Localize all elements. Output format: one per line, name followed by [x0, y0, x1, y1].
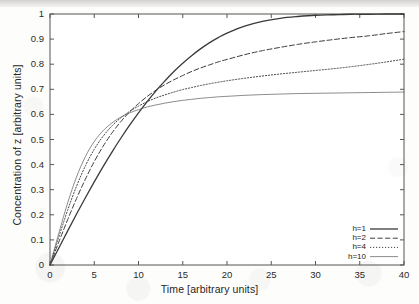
legend-label-h10: h=10 — [332, 252, 366, 261]
y-tick-label: 0.2 — [18, 209, 44, 220]
y-tick-label: 0.1 — [18, 234, 44, 245]
x-tick-label: 25 — [256, 269, 286, 280]
y-tick-label: 0.6 — [18, 108, 44, 119]
x-tick-label: 5 — [79, 269, 109, 280]
y-tick-label: 1 — [18, 8, 44, 19]
y-tick-label: 0.8 — [18, 58, 44, 69]
legend-label-h4: h=4 — [332, 242, 366, 251]
x-tick-label: 20 — [212, 269, 242, 280]
y-tick-label: 0.9 — [18, 33, 44, 44]
y-tick-label: 0.5 — [18, 134, 44, 145]
chart-figure: Time [arbitrary units] Concentration of … — [0, 0, 419, 304]
x-tick-label: 0 — [35, 269, 65, 280]
x-axis-title: Time [arbitrary units] — [0, 283, 419, 295]
y-tick-label: 0.4 — [18, 159, 44, 170]
x-tick-label: 35 — [345, 269, 375, 280]
y-tick-label: 0.3 — [18, 184, 44, 195]
x-tick-label: 30 — [301, 269, 331, 280]
x-tick-label: 40 — [389, 269, 419, 280]
x-tick-label: 15 — [168, 269, 198, 280]
y-tick-label: 0.7 — [18, 83, 44, 94]
legend-label-h2: h=2 — [332, 233, 366, 242]
x-tick-label: 10 — [124, 269, 154, 280]
legend-label-h1: h=1 — [332, 224, 366, 233]
